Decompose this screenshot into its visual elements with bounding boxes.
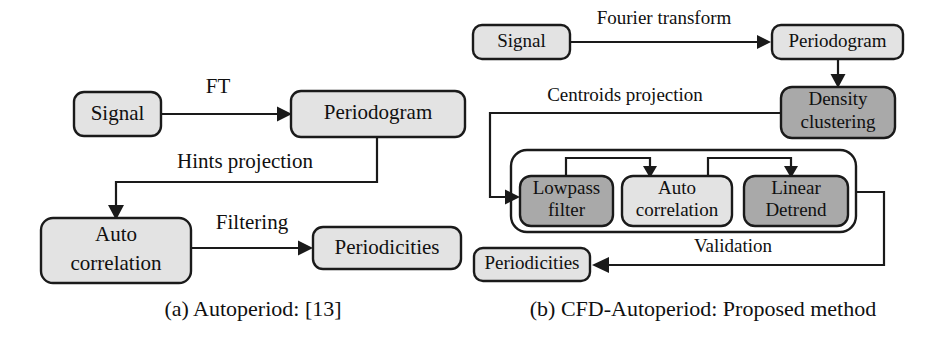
b-auto-correlation-node[interactable]: Auto correlation [622, 176, 732, 226]
b-periodicities-node[interactable]: Periodicities [474, 248, 590, 281]
a-autocorrelation-label-line1: Auto [95, 222, 137, 246]
b-periodogram-node[interactable]: Periodogram [772, 25, 903, 59]
b-lowpass-filter-label-line2: filter [548, 199, 586, 220]
b-auto-correlation-label-line2: correlation [636, 199, 719, 220]
b-auto-correlation-label-line1: Auto [658, 177, 696, 198]
b-density-clustering-node[interactable]: Density clustering [781, 87, 895, 138]
b-periodicities-label: Periodicities [485, 252, 580, 273]
panel-b-caption: (b) CFD-Autoperiod: Proposed method [530, 296, 876, 321]
b-periodogram-label: Periodogram [788, 30, 886, 51]
b-edge-centroids-label: Centroids projection [547, 84, 703, 105]
b-lowpass-filter-label-line1: Lowpass [533, 177, 601, 198]
a-signal-node[interactable]: Signal [74, 92, 161, 136]
a-periodogram-label: Periodogram [324, 100, 432, 124]
figure-diagram: FT Hints projection Filtering Signal Per… [0, 0, 941, 343]
a-autocorrelation-label-line2: correlation [71, 251, 162, 275]
panel-a: FT Hints projection Filtering Signal Per… [41, 74, 465, 321]
a-edge-filtering-label: Filtering [216, 210, 289, 234]
panel-a-caption: (a) Autoperiod: [13] [164, 296, 341, 321]
b-density-clustering-label-line2: clustering [801, 111, 876, 132]
b-edge-auto-detrend-line [708, 158, 791, 176]
b-linear-detrend-label-line1: Linear [771, 177, 821, 198]
a-edge-filtering-arrowhead [298, 241, 313, 256]
b-density-clustering-label-line1: Density [808, 88, 868, 109]
a-signal-label: Signal [91, 101, 145, 125]
b-edge-validation-arrowhead [592, 257, 609, 273]
b-linear-detrend-label-line2: Detrend [765, 199, 827, 220]
a-edge-hints-label: Hints projection [177, 149, 313, 173]
a-edge-filtering: Filtering [191, 210, 313, 256]
a-edge-ft-label: FT [206, 74, 231, 98]
a-autocorrelation-node[interactable]: Auto correlation [41, 218, 191, 283]
a-periodogram-node[interactable]: Periodogram [291, 91, 465, 137]
b-edge-lowpass-auto-line [566, 158, 650, 176]
a-periodicities-label: Periodicities [335, 235, 440, 259]
a-periodicities-node[interactable]: Periodicities [313, 227, 461, 269]
a-edge-ft-arrowhead [277, 107, 292, 122]
b-edge-centroids-arrowhead [505, 190, 520, 205]
b-edge-fourier-label: Fourier transform [597, 7, 732, 28]
b-edge-fourier: Fourier transform [570, 7, 771, 49]
a-edge-hints: Hints projection [108, 137, 377, 220]
a-edge-ft: FT [160, 74, 292, 122]
b-signal-node[interactable]: Signal [473, 25, 570, 59]
panel-b: Fourier transform Centroids projection [473, 7, 903, 321]
b-edge-periodogram-density [831, 58, 846, 88]
b-linear-detrend-node[interactable]: Linear Detrend [744, 176, 848, 226]
b-edge-fourier-arrowhead [757, 35, 771, 49]
b-lowpass-filter-node[interactable]: Lowpass filter [520, 176, 613, 226]
b-edge-validation-label: Validation [694, 235, 773, 256]
b-signal-label: Signal [497, 30, 546, 51]
